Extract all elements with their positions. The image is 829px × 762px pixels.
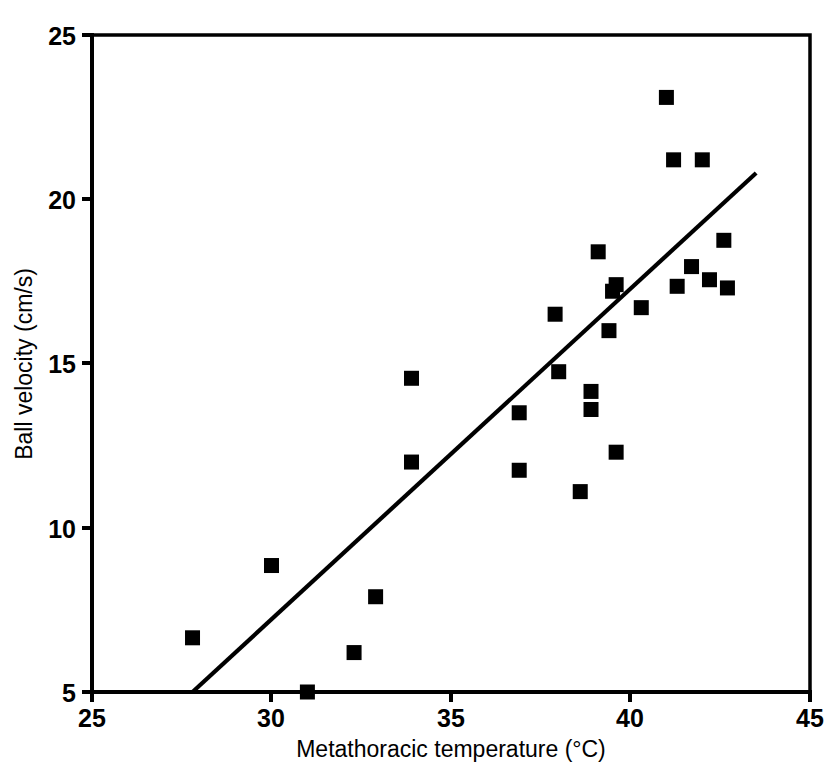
scatter-plot-figure: 25 20 15 10 5 25 30 35 40 45 Metathoraci…: [0, 0, 829, 762]
x-tick-label-25: 25: [78, 704, 106, 732]
y-axis-title: Ball velocity (cm/s): [11, 268, 37, 460]
y-tick-label-20: 20: [48, 186, 76, 214]
data-point-marker: [702, 272, 717, 287]
y-tick-label-25: 25: [48, 22, 76, 50]
data-point-marker: [609, 277, 624, 292]
data-point-marker: [684, 259, 699, 274]
data-point-marker: [185, 630, 200, 645]
y-tick-label-15: 15: [48, 350, 76, 378]
plot-canvas: 25 20 15 10 5 25 30 35 40 45 Metathoraci…: [0, 0, 829, 762]
data-point-marker: [548, 307, 563, 322]
data-point-marker: [404, 455, 419, 470]
plot-frame: [92, 35, 810, 692]
data-point-marker: [347, 645, 362, 660]
data-point-marker: [720, 280, 735, 295]
data-point-marker: [368, 589, 383, 604]
regression-line: [193, 173, 757, 692]
x-tick-labels: 25 30 35 40 45: [78, 704, 824, 732]
regression-line-layer: [193, 173, 757, 692]
data-point-marker: [659, 90, 674, 105]
x-tick-label-45: 45: [796, 704, 824, 732]
data-point-marker: [666, 152, 681, 167]
data-point-marker: [512, 463, 527, 478]
y-tick-label-5: 5: [62, 679, 76, 707]
data-point-marker: [551, 364, 566, 379]
data-point-marker: [300, 685, 315, 700]
data-point-marker: [716, 233, 731, 248]
data-point-marker: [512, 405, 527, 420]
data-point-marker: [573, 484, 588, 499]
x-tick-label-30: 30: [257, 704, 285, 732]
data-point-marker: [264, 558, 279, 573]
data-point-marker: [634, 300, 649, 315]
y-tick-labels: 25 20 15 10 5: [48, 22, 76, 707]
y-tick-label-10: 10: [48, 515, 76, 543]
data-point-marker: [584, 384, 599, 399]
x-axis-title: Metathoracic temperature (°C): [296, 736, 606, 762]
axis-left-bottom: [92, 35, 810, 692]
data-point-marker: [670, 279, 685, 294]
frame-top-right: [92, 35, 810, 692]
data-point-marker: [609, 445, 624, 460]
data-point-marker: [591, 244, 606, 259]
data-point-marker: [695, 152, 710, 167]
data-point-marker: [404, 371, 419, 386]
x-tick-label-40: 40: [616, 704, 644, 732]
data-points-layer: [185, 90, 735, 700]
data-point-marker: [601, 323, 616, 338]
data-point-marker: [584, 402, 599, 417]
x-tick-label-35: 35: [437, 704, 465, 732]
